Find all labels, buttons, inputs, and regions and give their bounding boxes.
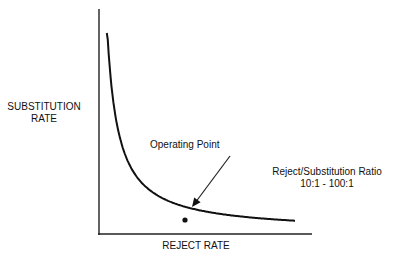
y-axis-label-line-1: SUBSTITUTION <box>6 101 82 113</box>
x-axis-label: REJECT RATE <box>151 240 241 252</box>
arrowhead-icon <box>192 197 201 207</box>
operating-point-marker <box>182 217 187 222</box>
y-axis-label: SUBSTITUTION RATE <box>6 101 82 125</box>
operating-point-label: Operating Point <box>150 139 220 151</box>
operating-point-arrow <box>195 156 230 203</box>
ratio-annotation: Reject/Substitution Ratio 10:1 - 100:1 <box>268 166 386 190</box>
y-axis-label-line-2: RATE <box>6 113 82 125</box>
chart <box>0 0 399 262</box>
ratio-title: Reject/Substitution Ratio <box>268 166 386 178</box>
ratio-range: 10:1 - 100:1 <box>268 178 386 190</box>
curve <box>107 33 295 221</box>
